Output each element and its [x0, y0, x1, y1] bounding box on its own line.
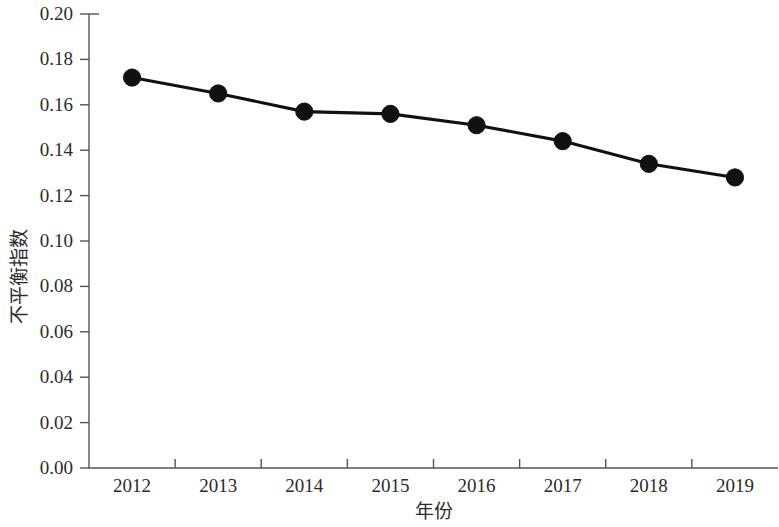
x-tick-label: 2015 — [371, 475, 409, 496]
y-tick-label: 0.12 — [40, 185, 73, 206]
data-point — [640, 155, 657, 172]
y-tick-label: 0.06 — [40, 321, 73, 342]
x-tick-label: 2014 — [285, 475, 324, 496]
x-axis-title: 年份 — [415, 501, 453, 522]
y-axis-title: 不平衡指数 — [9, 229, 30, 324]
y-tick-label: 0.18 — [40, 48, 73, 69]
y-tick-label: 0.10 — [40, 230, 73, 251]
data-point — [382, 105, 399, 122]
data-point — [210, 85, 227, 102]
x-tick-label: 2017 — [544, 475, 582, 496]
y-tick-label: 0.20 — [40, 3, 73, 24]
chart-canvas: 0.000.020.040.060.080.100.120.140.160.18… — [0, 0, 779, 527]
y-tick-label: 0.14 — [40, 139, 74, 160]
y-tick-label: 0.00 — [40, 457, 73, 478]
data-point — [123, 69, 140, 86]
y-tick-label: 0.08 — [40, 275, 73, 296]
data-point — [554, 133, 571, 150]
line-chart: 0.000.020.040.060.080.100.120.140.160.18… — [0, 0, 779, 527]
series-markers — [123, 69, 743, 186]
y-tick-label: 0.04 — [40, 366, 74, 387]
data-point — [726, 169, 743, 186]
data-point — [468, 117, 485, 134]
y-axis-ticks: 0.000.020.040.060.080.100.120.140.160.18… — [40, 3, 89, 478]
x-tick-label: 2016 — [458, 475, 496, 496]
x-axis-ticks: 20122013201420152016201720182019 — [113, 459, 754, 496]
axes — [89, 14, 778, 468]
y-tick-label: 0.16 — [40, 94, 73, 115]
x-tick-label: 2013 — [199, 475, 237, 496]
y-tick-label: 0.02 — [40, 412, 73, 433]
axis-lines — [89, 14, 778, 468]
x-tick-label: 2012 — [113, 475, 151, 496]
data-point — [296, 103, 313, 120]
x-tick-label: 2018 — [630, 475, 668, 496]
x-tick-label: 2019 — [716, 475, 754, 496]
